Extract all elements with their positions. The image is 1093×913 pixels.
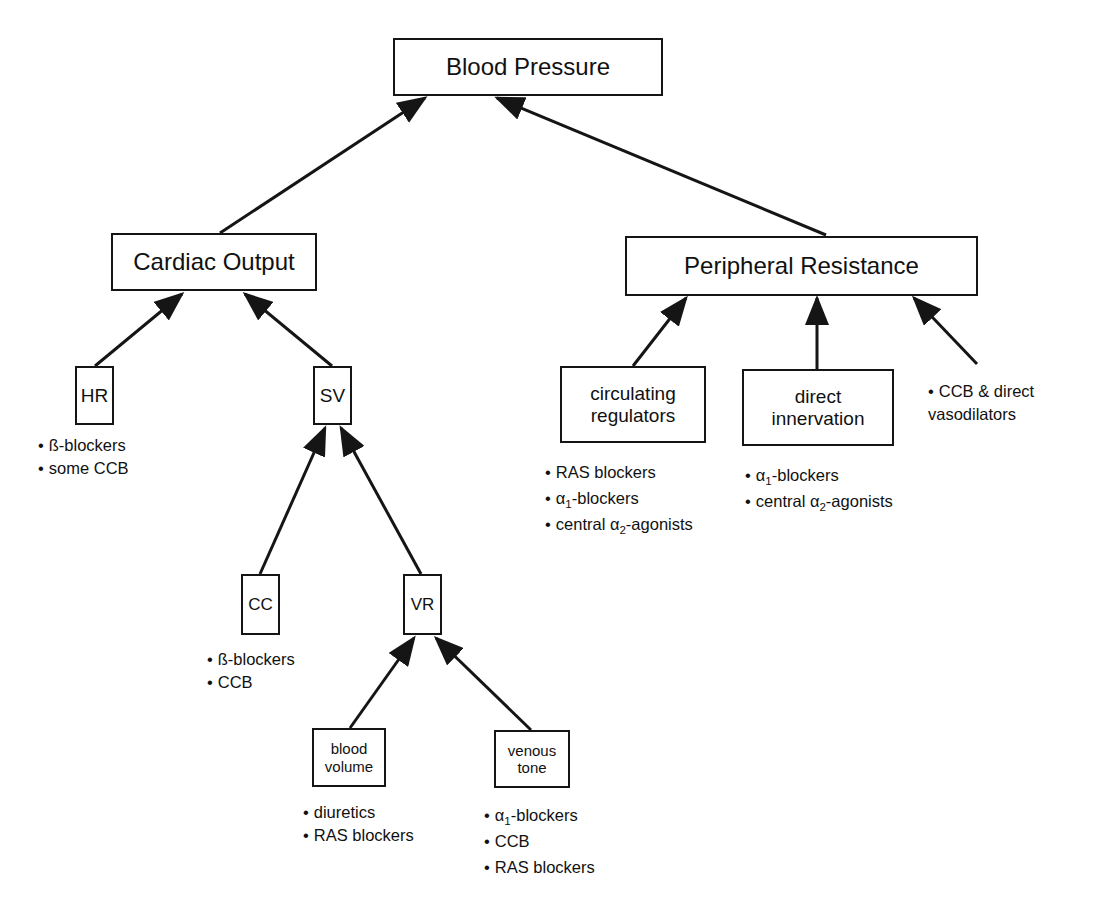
node-direct-innervation: direct innervation (742, 369, 894, 446)
node-cardiac-output-label: Cardiac Output (133, 248, 294, 276)
note-item: ß-blockers (207, 648, 295, 671)
note-item: diuretics (303, 801, 414, 824)
edge-cardiac-output-to-blood-pressure (220, 98, 425, 233)
notes-circulating-regulators: RAS blockers α1-blockers central α2-agon… (545, 461, 693, 539)
edge-sv-to-cardiac-output (245, 294, 332, 366)
notes-hr: ß-blockers some CCB (38, 434, 129, 480)
note-item: RAS blockers (484, 856, 595, 879)
note-item: CCB & direct (928, 380, 1034, 403)
note-item-continuation: vasodilators (928, 403, 1034, 426)
node-direct-innervation-label: direct innervation (772, 386, 865, 430)
note-item: α1-blockers (484, 804, 595, 827)
node-peripheral-resistance: Peripheral Resistance (625, 236, 978, 296)
note-item: central α2-agonists (745, 490, 893, 513)
note-item: RAS blockers (545, 461, 693, 484)
node-sv: SV (313, 366, 352, 425)
note-item: central α2-agonists (545, 513, 693, 536)
note-item: ß-blockers (38, 434, 129, 457)
node-circulating-regulators: circulating regulators (560, 366, 706, 443)
notes-cc: ß-blockers CCB (207, 648, 295, 694)
node-hr-label: HR (81, 385, 108, 407)
node-vr-label: VR (411, 595, 435, 615)
note-item: CCB (207, 671, 295, 694)
note-item: α1-blockers (545, 487, 693, 510)
edge-vr-to-sv (341, 428, 421, 574)
node-blood-volume: blood volume (312, 728, 386, 787)
notes-vasodilators: CCB & direct vasodilators (928, 380, 1034, 426)
edge-venous-tone-to-vr (436, 638, 531, 730)
node-cardiac-output: Cardiac Output (111, 233, 317, 291)
node-blood-pressure: Blood Pressure (393, 38, 663, 96)
notes-direct-innervation: α1-blockers central α2-agonists (745, 464, 893, 516)
edge-peripheral-resistance-to-blood-pressure (497, 98, 826, 235)
note-item: RAS blockers (303, 824, 414, 847)
notes-venous-tone: α1-blockers CCB RAS blockers (484, 804, 595, 882)
edge-circulating-regulators-to-peripheral-resistance (633, 298, 686, 366)
note-item: α1-blockers (745, 464, 893, 487)
notes-blood-volume: diuretics RAS blockers (303, 801, 414, 847)
note-item: some CCB (38, 457, 129, 480)
node-venous-tone: venous tone (494, 730, 570, 788)
edge-vasodilators-to-peripheral-resistance (914, 298, 977, 364)
node-circulating-regulators-label: circulating regulators (590, 383, 676, 427)
edge-blood-volume-to-vr (350, 638, 414, 728)
edge-hr-to-cardiac-output (95, 294, 182, 366)
note-item: CCB (484, 830, 595, 853)
node-cc-label: CC (248, 595, 273, 615)
node-cc: CC (241, 574, 280, 635)
node-blood-volume-label: blood volume (325, 740, 373, 775)
node-sv-label: SV (320, 385, 345, 407)
edge-cc-to-sv (260, 428, 325, 574)
node-blood-pressure-label: Blood Pressure (446, 53, 610, 81)
node-peripheral-resistance-label: Peripheral Resistance (684, 252, 919, 280)
node-vr: VR (403, 574, 442, 635)
node-venous-tone-label: venous tone (508, 742, 556, 777)
node-hr: HR (75, 366, 114, 425)
